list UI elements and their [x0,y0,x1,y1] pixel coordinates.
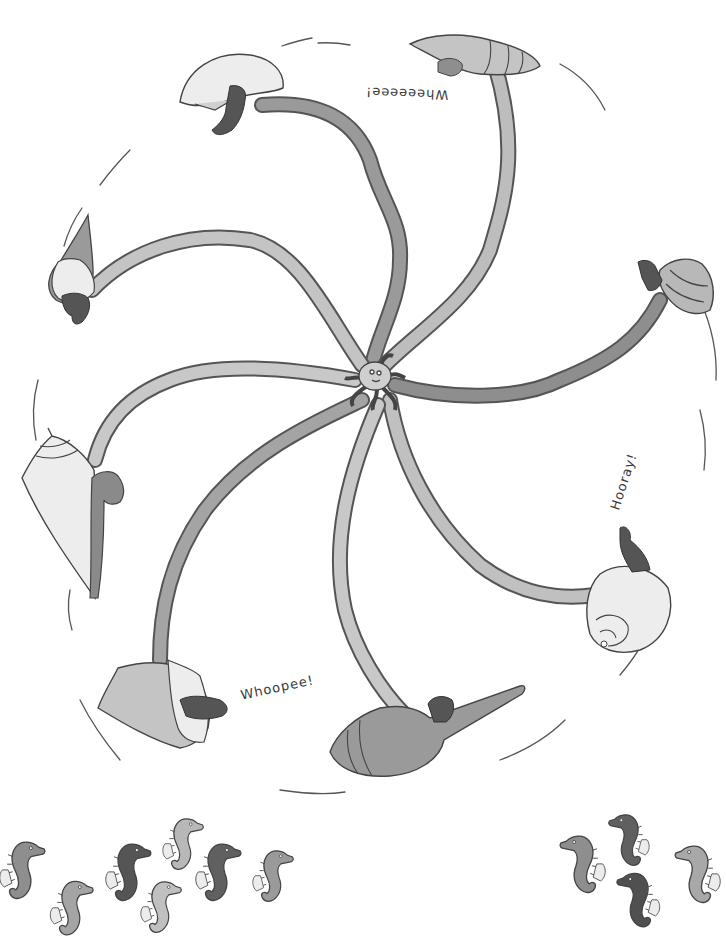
shell-left-upper [49,215,95,324]
seahorse-group-right [560,815,720,927]
seahorse-group-left [0,819,293,935]
shell-right-lower [587,527,671,652]
illustration-canvas [0,0,726,940]
shell-top-left [180,54,283,134]
shell-bottom-left [98,660,227,748]
shell-left-middle [22,428,124,598]
shell-bottom-center [330,686,525,777]
shell-top-right [410,35,540,76]
label-wheeeeee: Wheeeeee! [365,85,449,103]
